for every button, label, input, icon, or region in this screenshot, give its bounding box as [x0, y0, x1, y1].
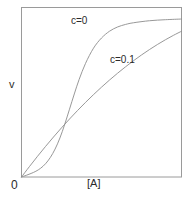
plot-canvas [0, 0, 189, 200]
y-axis-label: v [9, 79, 15, 90]
curve-label-c-equals-0: c=0 [71, 16, 87, 26]
figure-panel: v [A] 0 c=0 c=0.1 [0, 0, 189, 200]
curve-label-c-equals-0-point-1: c=0.1 [110, 55, 135, 65]
x-axis-label: [A] [87, 178, 100, 189]
origin-tick-label: 0 [11, 179, 18, 191]
plot-frame [22, 8, 182, 178]
